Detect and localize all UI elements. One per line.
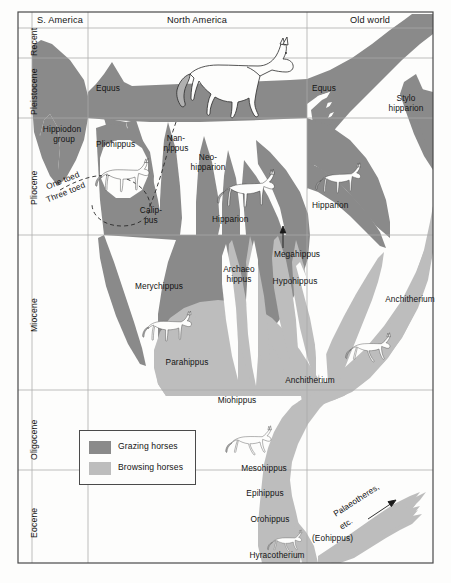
epoch-label-pliocene: Pliocene — [29, 170, 39, 205]
epoch-label-eocene: Eocene — [29, 508, 39, 538]
legend-box: Grazing horses Browsing horses — [79, 430, 196, 485]
legend-label-browsing: Browsing horses — [118, 463, 183, 472]
legend-label-grazing: Grazing horses — [118, 442, 178, 451]
epoch-label-pleistocene: Pleistocene — [29, 68, 39, 115]
legend-swatch-grazing — [89, 441, 111, 454]
epoch-label-miocene: Miocene — [29, 298, 39, 332]
phylogeny-diagram — [0, 0, 451, 583]
epoch-label-oligocene: Oligocene — [29, 420, 39, 461]
epoch-label-recent: Recent — [29, 28, 39, 56]
legend-swatch-browsing — [89, 462, 111, 475]
horse-evolution-chart: S. America North America Old world Recen… — [0, 0, 451, 583]
